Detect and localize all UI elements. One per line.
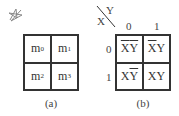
minterm-cell-m3: m3 — [51, 63, 78, 91]
karnaugh-map-grid: XY XY XY XY — [115, 34, 171, 91]
kmap-cell-x-ybar: XY — [116, 63, 143, 91]
column-header-1: 1 — [154, 20, 160, 32]
caption-a: (a) — [36, 97, 66, 109]
minterm-grid: m0 m1 m2 m3 — [23, 34, 79, 91]
kmap-cell-xbar-ybar: XY — [116, 35, 143, 63]
minterm-cell-m1: m1 — [51, 35, 78, 63]
minterm-cell-m2: m2 — [24, 63, 51, 91]
star-scribble-icon — [7, 6, 25, 24]
row-header-1: 1 — [106, 71, 112, 83]
caption-b: (b) — [128, 97, 158, 109]
row-header-0: 0 — [106, 43, 112, 55]
minterm-cell-m0: m0 — [24, 35, 51, 63]
column-variable-label: Y — [106, 4, 114, 16]
column-header-0: 0 — [126, 20, 132, 32]
kmap-cell-xbar-y: XY — [143, 35, 170, 63]
row-variable-label: X — [97, 15, 105, 27]
kmap-cell-x-y: XY — [143, 63, 170, 91]
